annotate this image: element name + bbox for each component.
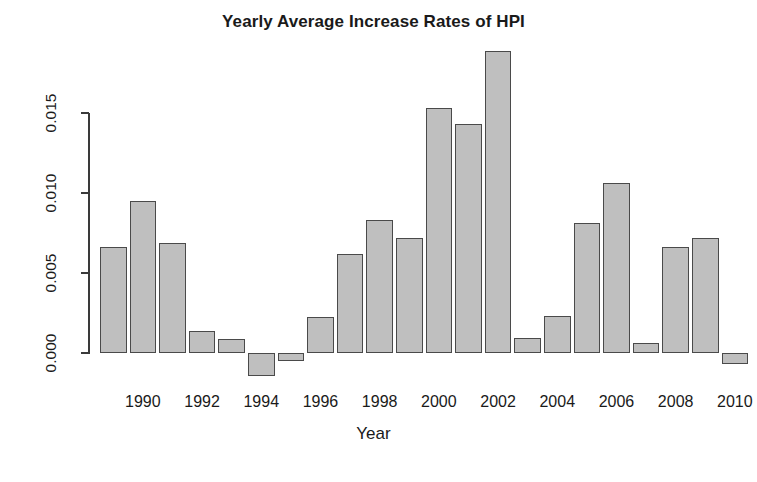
x-axis-tick-label: 2010 bbox=[705, 393, 757, 411]
x-axis-title: Year bbox=[0, 424, 747, 444]
bar bbox=[455, 124, 482, 353]
bar bbox=[100, 247, 127, 353]
bar bbox=[337, 254, 364, 353]
bar bbox=[574, 223, 601, 353]
bar bbox=[189, 331, 216, 353]
y-axis-tick-label: 0.010 bbox=[28, 183, 74, 203]
y-axis-tick-mark bbox=[81, 192, 89, 194]
x-axis-tick-label: 1998 bbox=[350, 393, 410, 411]
bar bbox=[426, 108, 453, 353]
y-axis-tick-label: 0.000 bbox=[28, 343, 74, 363]
bar bbox=[514, 338, 541, 353]
y-axis-tick-label: 0.015 bbox=[28, 103, 74, 123]
bar bbox=[692, 238, 719, 353]
bar bbox=[307, 317, 334, 353]
x-axis-tick-label: 2000 bbox=[409, 393, 469, 411]
bar bbox=[396, 238, 423, 353]
bar bbox=[722, 353, 749, 364]
bar bbox=[662, 247, 689, 353]
x-axis-tick-label: 2008 bbox=[646, 393, 706, 411]
bar bbox=[544, 316, 571, 353]
bar bbox=[485, 51, 512, 353]
bar bbox=[603, 183, 630, 353]
bar bbox=[278, 353, 305, 361]
x-axis-tick-label: 2004 bbox=[527, 393, 587, 411]
y-axis-tick-mark bbox=[81, 112, 89, 114]
x-axis-tick-label: 1996 bbox=[290, 393, 350, 411]
x-axis-tick-label: 1992 bbox=[172, 393, 232, 411]
bar bbox=[366, 220, 393, 353]
bar bbox=[159, 243, 186, 353]
bar bbox=[130, 201, 157, 353]
x-axis-tick-label: 2006 bbox=[586, 393, 646, 411]
x-axis-tick-label: 2002 bbox=[468, 393, 528, 411]
y-axis-tick-mark bbox=[81, 352, 89, 354]
bar bbox=[218, 339, 245, 353]
y-axis-tick-label: 0.005 bbox=[28, 263, 74, 283]
x-axis-tick-label: 1994 bbox=[231, 393, 291, 411]
y-axis-tick-mark bbox=[81, 272, 89, 274]
bar bbox=[633, 343, 660, 353]
x-axis-tick-label: 1990 bbox=[113, 393, 173, 411]
bar bbox=[248, 353, 275, 376]
y-axis-line bbox=[88, 113, 90, 354]
